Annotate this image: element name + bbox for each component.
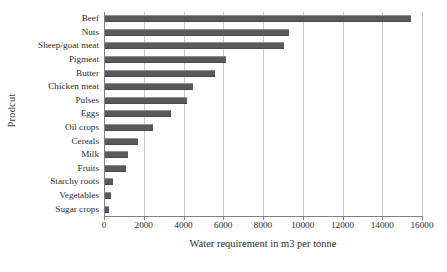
bar-row	[105, 162, 422, 176]
y-axis-category-label: Chicken meat	[18, 80, 102, 94]
bar	[105, 206, 109, 213]
x-axis-tick-label: 12000	[331, 221, 354, 230]
y-axis-title-text: Prodcut	[6, 93, 17, 127]
bar-row	[105, 202, 422, 216]
bar	[105, 110, 171, 117]
bar	[105, 165, 126, 172]
bar-series	[105, 12, 422, 216]
bar	[105, 42, 284, 49]
y-axis-category-label: Butter	[18, 66, 102, 80]
y-axis-category-label: Milk	[18, 148, 102, 162]
y-axis-category-label: Oil crops	[18, 121, 102, 135]
bar-row	[105, 94, 422, 108]
y-axis-category-label: Cereals	[18, 134, 102, 148]
y-axis-category-label: Beef	[18, 12, 102, 26]
bar-row	[105, 53, 422, 67]
x-axis-tick-label: 8000	[254, 221, 272, 230]
x-axis-tick-labels: 0200040006000800010000120001400016000	[104, 221, 422, 235]
bar-row	[105, 121, 422, 135]
bar	[105, 83, 193, 90]
bar-row	[105, 107, 422, 121]
y-axis-category-label: Sheep/goat meat	[18, 39, 102, 53]
bar-row	[105, 39, 422, 53]
bar-row	[105, 134, 422, 148]
x-axis-tick-label: 14000	[371, 221, 394, 230]
y-axis-category-label: Nuts	[18, 26, 102, 40]
bar-row	[105, 80, 422, 94]
bar-row	[105, 26, 422, 40]
bar	[105, 124, 153, 131]
x-axis-tick-label: 10000	[291, 221, 314, 230]
bar-row	[105, 189, 422, 203]
bar	[105, 97, 187, 104]
y-axis-category-labels: BeefNutsSheep/goat meatPigmeatButterChic…	[18, 12, 102, 216]
y-axis-category-label: Vegetables	[18, 189, 102, 203]
bar	[105, 192, 111, 199]
bar	[105, 56, 226, 63]
x-axis-tick-label: 6000	[214, 221, 232, 230]
bar	[105, 151, 128, 158]
gridline	[422, 12, 423, 216]
y-axis-category-label: Pigmeat	[18, 53, 102, 67]
y-axis-category-label: Starchy roots	[18, 175, 102, 189]
bar-row	[105, 148, 422, 162]
x-axis-tick-label: 0	[102, 221, 107, 230]
bar-row	[105, 12, 422, 26]
x-axis-tick-label: 16000	[411, 221, 434, 230]
bar-row	[105, 175, 422, 189]
bar	[105, 29, 289, 36]
water-footprint-bar-chart: Prodcut BeefNutsSheep/goat meatPigmeatBu…	[0, 0, 447, 272]
x-axis-tick-label: 2000	[135, 221, 153, 230]
y-axis-category-label: Eggs	[18, 107, 102, 121]
bar	[105, 138, 138, 145]
y-axis-category-label: Sugar crops	[18, 202, 102, 216]
x-axis-tick-label: 4000	[174, 221, 192, 230]
y-axis-category-label: Pulses	[18, 94, 102, 108]
bar	[105, 178, 113, 185]
bar	[105, 15, 411, 22]
y-axis-category-label: Fruits	[18, 162, 102, 176]
plot-area	[104, 12, 422, 216]
bar-row	[105, 66, 422, 80]
bar	[105, 70, 215, 77]
x-axis-title: Water requirement in m3 per tonne	[104, 238, 422, 249]
